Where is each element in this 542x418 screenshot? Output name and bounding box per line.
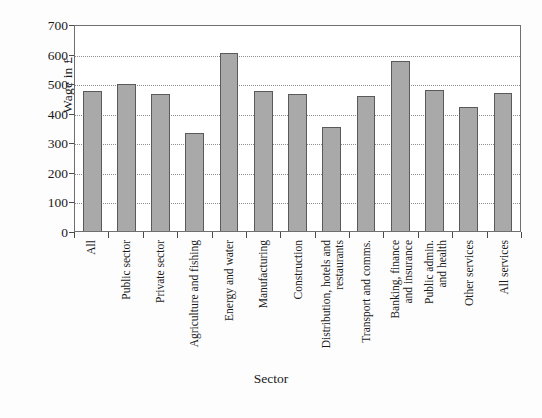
x-label-cell: Banking, financeand insurance <box>384 240 418 360</box>
x-axis-ticks <box>74 232 521 238</box>
x-category-label-line: All services <box>498 240 510 295</box>
x-label-cell: Public sector <box>108 240 142 360</box>
x-category-label: All <box>85 240 98 255</box>
x-category-label-line: All <box>85 240 97 255</box>
y-tick-label: 0 <box>26 226 68 240</box>
plot-area <box>74 25 521 232</box>
bar-cell <box>417 26 451 231</box>
x-category-label: Other services <box>463 240 476 306</box>
y-tick-mark <box>69 55 74 56</box>
x-category-label-line: Public sector <box>119 240 131 300</box>
bar[interactable] <box>459 107 478 231</box>
y-tick-label: 500 <box>26 78 68 92</box>
bar[interactable] <box>425 90 444 231</box>
x-tick-mark <box>143 232 144 238</box>
x-category-label: Public sector <box>119 240 132 300</box>
x-tick-mark <box>315 232 316 238</box>
x-category-label-line: restaurants <box>332 240 345 348</box>
x-label-cell: Transport and comms. <box>349 240 383 360</box>
y-tick-mark <box>69 84 74 85</box>
bar[interactable] <box>322 127 341 231</box>
bar-cell <box>143 26 177 231</box>
y-tick-label: 200 <box>26 167 68 181</box>
bar[interactable] <box>357 96 376 231</box>
y-tick-mark <box>69 114 74 115</box>
y-tick-mark <box>69 25 74 26</box>
y-tick-mark <box>69 173 74 174</box>
x-category-label-line: Public admin. <box>423 240 435 304</box>
x-tick-mark <box>74 232 75 238</box>
y-tick-label: 700 <box>26 19 68 33</box>
x-label-cell: Private sector <box>143 240 177 360</box>
bar[interactable] <box>494 93 513 231</box>
x-category-label-line: Manufacturing <box>257 240 269 308</box>
x-tick-mark <box>212 232 213 238</box>
x-label-cell: Manufacturing <box>246 240 280 360</box>
x-category-label: Distribution, hotels andrestaurants <box>319 240 344 348</box>
x-label-cell: Construction <box>280 240 314 360</box>
x-category-label: Banking, financeand insurance <box>388 240 413 319</box>
bar[interactable] <box>220 53 239 231</box>
x-category-label: Manufacturing <box>257 240 270 308</box>
x-category-label: Private sector <box>154 240 167 303</box>
x-category-label-line: and insurance <box>401 240 414 319</box>
bar[interactable] <box>254 91 273 231</box>
x-tick-mark <box>108 232 109 238</box>
bar-cell <box>109 26 143 231</box>
bar[interactable] <box>185 133 204 231</box>
x-category-label: Agriculture and fishing <box>188 240 201 347</box>
x-tick-mark <box>280 232 281 238</box>
x-tick-mark <box>383 232 384 238</box>
y-tick-label: 400 <box>26 108 68 122</box>
x-tick-mark <box>349 232 350 238</box>
bar-chart-figure: Wage in £ 0100200300400500600700 AllPubl… <box>0 0 542 418</box>
bar-cell <box>486 26 520 231</box>
y-tick-label: 100 <box>26 196 68 210</box>
x-tick-mark <box>177 232 178 238</box>
x-category-label-line: Private sector <box>154 240 166 303</box>
x-tick-mark <box>487 232 488 238</box>
x-label-cell: All services <box>487 240 521 360</box>
x-category-label: Public admin.and health <box>423 240 448 304</box>
bar-cell <box>280 26 314 231</box>
x-category-label-line: Energy and water <box>223 240 235 321</box>
bar-cell <box>75 26 109 231</box>
x-category-label-line: Distribution, hotels and <box>319 240 331 348</box>
bar-cell <box>246 26 280 231</box>
x-label-cell: Public admin.and health <box>418 240 452 360</box>
x-category-label: Construction <box>291 240 304 299</box>
x-category-label: Energy and water <box>223 240 236 321</box>
bar[interactable] <box>83 91 102 231</box>
x-tick-mark <box>521 232 522 238</box>
x-category-label-line: and health <box>435 240 448 304</box>
x-tick-mark <box>246 232 247 238</box>
x-tick-mark <box>418 232 419 238</box>
bar[interactable] <box>117 84 136 231</box>
x-label-cell: Energy and water <box>212 240 246 360</box>
x-label-cell: Agriculture and fishing <box>177 240 211 360</box>
y-tick-label: 300 <box>26 137 68 151</box>
bar[interactable] <box>391 61 410 231</box>
bar-cell <box>212 26 246 231</box>
y-tick-mark <box>69 202 74 203</box>
bar-cell <box>178 26 212 231</box>
x-label-cell: Other services <box>452 240 486 360</box>
bar[interactable] <box>288 94 307 232</box>
x-label-cell: Distribution, hotels andrestaurants <box>315 240 349 360</box>
bar-cell <box>349 26 383 231</box>
y-tick-label: 600 <box>26 49 68 63</box>
x-tick-mark <box>452 232 453 238</box>
x-category-label: Transport and comms. <box>360 240 373 343</box>
bar-cell <box>452 26 486 231</box>
x-axis-category-labels: AllPublic sectorPrivate sectorAgricultur… <box>74 240 521 360</box>
y-tick-mark <box>69 143 74 144</box>
bars-group <box>75 26 520 231</box>
x-category-label-line: Other services <box>463 240 475 306</box>
x-label-cell: All <box>74 240 108 360</box>
bar-cell <box>315 26 349 231</box>
bar[interactable] <box>151 94 170 231</box>
x-category-label-line: Transport and comms. <box>360 240 372 343</box>
x-category-label-line: Construction <box>291 240 303 299</box>
x-category-label: All services <box>498 240 511 295</box>
x-axis-title: Sector <box>0 371 542 387</box>
